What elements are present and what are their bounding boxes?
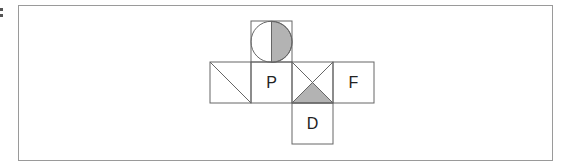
label-p: P	[266, 74, 277, 91]
face-cross	[292, 62, 333, 103]
shaded-triangle	[292, 83, 333, 104]
face-top	[251, 21, 292, 63]
label-d: D	[307, 115, 319, 132]
diagonal-line	[210, 62, 251, 103]
face-left	[210, 62, 251, 103]
cube-net-diagram: P F D	[0, 0, 565, 167]
label-f: F	[349, 74, 359, 91]
